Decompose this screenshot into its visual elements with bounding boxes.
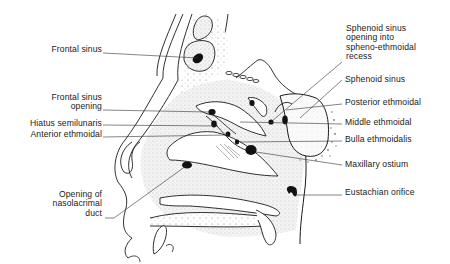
label-text: Eustachian orifice — [345, 188, 415, 197]
label-text: Middle ethmoidal — [345, 118, 412, 127]
label-text: Frontal sinus — [52, 45, 103, 54]
label-sphenoid-sinus: Sphenoid sinus — [345, 75, 405, 84]
label-anterior-ethmoidal: Anterior ethmoidal — [30, 130, 102, 139]
label-frontal-sinus-opening: Frontal sinus opening — [52, 93, 103, 112]
label-sphenoid-sinus-opening: Sphenoid sinus opening into spheno-ethmo… — [346, 24, 416, 62]
label-frontal-sinus: Frontal sinus — [52, 45, 103, 54]
label-text: Maxillary ostium — [345, 160, 408, 169]
label-eustachian-orifice: Eustachian orifice — [345, 188, 415, 197]
label-bulla-ethmoidalis: Bulla ethmoidalis — [345, 135, 412, 144]
label-middle-ethmoidal: Middle ethmoidal — [345, 118, 412, 127]
label-hiatus-semilunaris: Hiatus semilunaris — [30, 119, 102, 128]
label-text: Sphenoid sinus — [345, 75, 405, 84]
nasal-anatomy-figure: Frontal sinus Frontal sinus opening Hiat… — [0, 0, 450, 264]
label-maxillary-ostium: Maxillary ostium — [345, 160, 408, 169]
label-text: Anterior ethmoidal — [30, 130, 102, 139]
label-text: Bulla ethmoidalis — [345, 135, 412, 144]
label-text: duct — [53, 209, 102, 218]
label-opening-nasolacrimal-duct: Opening of nasolacrimal duct — [53, 190, 102, 218]
label-text: Hiatus semilunaris — [30, 119, 102, 128]
label-text: opening — [52, 102, 103, 111]
label-text: Posterior ethmoidal — [345, 98, 421, 107]
label-text: recess — [346, 52, 416, 61]
label-posterior-ethmoidal: Posterior ethmoidal — [345, 98, 421, 107]
